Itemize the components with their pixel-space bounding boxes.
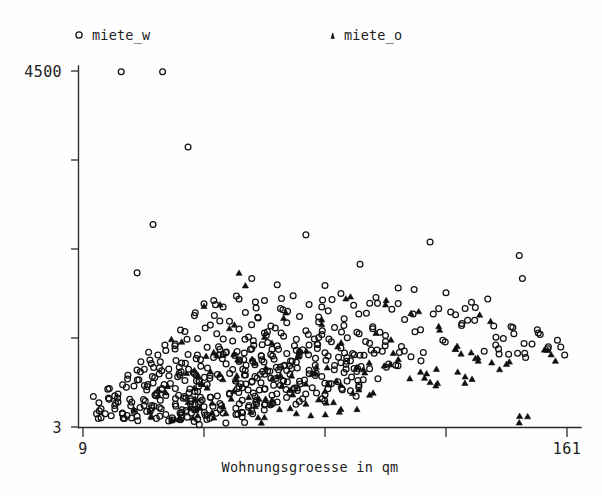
data-point-miete-w	[412, 329, 418, 335]
data-point-miete-w	[146, 349, 152, 355]
data-point-miete-w	[511, 331, 517, 337]
data-point-miete-o	[338, 340, 344, 345]
data-point-miete-w	[389, 306, 395, 312]
data-point-miete-o	[316, 397, 322, 402]
data-point-miete-w	[262, 298, 268, 304]
data-point-miete-o	[388, 337, 394, 342]
data-point-miete-o	[390, 350, 396, 355]
data-point-miete-w	[90, 394, 96, 400]
data-point-miete-w	[108, 413, 114, 419]
data-point-miete-w	[230, 338, 236, 344]
data-point-miete-w	[306, 342, 312, 348]
data-point-miete-w	[357, 261, 363, 267]
data-point-miete-w	[233, 405, 239, 411]
data-point-miete-w	[465, 317, 471, 323]
data-point-miete-w	[383, 333, 389, 339]
data-point-miete-w	[155, 352, 161, 358]
data-point-miete-o	[324, 365, 330, 370]
legend: miete_w miete_o	[76, 27, 402, 44]
data-point-miete-w	[118, 69, 124, 75]
data-point-miete-w	[341, 323, 347, 329]
data-point-miete-w	[402, 317, 408, 323]
scatter-plot-page: 4500 3 9 161 Wohnungsgroesse in qm miete…	[0, 0, 602, 496]
data-point-miete-w	[284, 351, 290, 357]
data-point-miete-o	[506, 359, 512, 364]
data-point-miete-w	[274, 282, 280, 288]
data-point-miete-w	[356, 311, 362, 317]
data-point-miete-w	[521, 341, 527, 347]
data-point-miete-o	[462, 374, 468, 379]
data-point-miete-w	[157, 359, 163, 365]
series-miete-w-points	[90, 69, 567, 428]
data-point-miete-w	[472, 317, 478, 323]
data-point-miete-w	[373, 295, 379, 301]
data-point-miete-w	[214, 393, 220, 399]
data-point-miete-w	[367, 300, 373, 306]
data-point-miete-o	[223, 410, 229, 415]
data-point-miete-w	[448, 309, 454, 315]
data-point-miete-w	[562, 352, 568, 358]
data-point-miete-w	[242, 310, 248, 316]
data-point-miete-w	[241, 350, 247, 356]
data-point-miete-w	[329, 297, 335, 303]
data-point-miete-w	[198, 363, 204, 369]
data-point-miete-w	[306, 302, 312, 308]
data-point-miete-w	[214, 331, 220, 337]
data-point-miete-w	[344, 335, 350, 341]
data-point-miete-w	[147, 357, 153, 363]
x-axis-max-label: 161	[553, 440, 581, 458]
data-point-miete-w	[427, 239, 433, 245]
data-point-miete-w	[420, 350, 426, 356]
data-point-miete-o	[423, 371, 429, 376]
data-point-miete-w	[361, 352, 367, 358]
data-point-miete-w	[319, 304, 325, 310]
data-point-miete-w	[195, 352, 201, 358]
data-point-miete-w	[520, 276, 526, 282]
data-point-miete-w	[485, 296, 491, 302]
data-point-miete-o	[330, 399, 336, 404]
data-point-miete-w	[430, 311, 436, 317]
data-point-miete-o	[261, 414, 267, 419]
data-point-miete-w	[314, 390, 320, 396]
data-point-miete-w	[184, 336, 190, 342]
data-point-miete-w	[249, 322, 255, 328]
data-point-miete-w	[309, 385, 315, 391]
data-point-miete-w	[249, 276, 255, 282]
data-point-miete-o	[195, 412, 201, 417]
data-point-miete-w	[134, 270, 140, 276]
data-point-miete-w	[96, 400, 102, 406]
data-point-miete-o	[416, 308, 422, 313]
data-point-miete-o	[211, 349, 217, 354]
data-point-miete-w	[217, 318, 223, 324]
data-point-miete-w	[294, 365, 300, 371]
data-point-miete-w	[230, 367, 236, 373]
data-point-miete-w	[314, 346, 320, 352]
data-point-miete-w	[395, 301, 401, 307]
data-point-miete-w	[293, 336, 299, 342]
data-point-miete-o	[427, 379, 433, 384]
data-point-miete-o	[496, 366, 502, 371]
data-point-miete-w	[157, 405, 163, 411]
data-point-miete-o	[263, 396, 269, 401]
data-point-miete-w	[112, 406, 118, 412]
data-point-miete-w	[481, 348, 487, 354]
data-point-miete-w	[202, 325, 208, 331]
data-point-miete-w	[236, 390, 242, 396]
scatter-plot-canvas: 4500 3 9 161 Wohnungsgroesse in qm miete…	[0, 0, 602, 496]
data-point-miete-w	[166, 366, 172, 372]
y-axis-ticks	[71, 71, 79, 427]
x-axis-ticks	[83, 427, 567, 437]
data-point-miete-w	[436, 306, 442, 312]
data-point-miete-w	[223, 361, 229, 367]
data-point-miete-w	[297, 314, 303, 320]
data-point-miete-w	[506, 351, 512, 357]
data-point-miete-w	[303, 232, 309, 238]
data-point-miete-w	[125, 372, 131, 378]
data-point-miete-w	[443, 290, 449, 296]
data-point-miete-w	[313, 355, 319, 361]
x-axis-title: Wohnungsgroesse in qm	[222, 459, 399, 475]
data-point-miete-w	[276, 346, 282, 352]
data-point-miete-w	[322, 283, 328, 289]
data-point-miete-w	[223, 420, 229, 426]
data-point-miete-o	[468, 350, 474, 355]
